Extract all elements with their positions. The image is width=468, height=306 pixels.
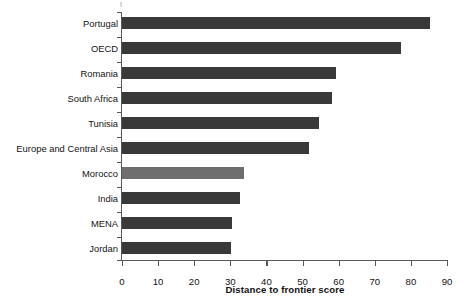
y-axis-tick	[117, 162, 122, 163]
y-axis-label-europe-and-central-asia: Europe and Central Asia	[2, 143, 118, 154]
bar-tunisia	[122, 117, 319, 129]
x-axis-tick	[266, 260, 267, 266]
y-axis-category-labels: Portugal OECD Romania South Africa Tunis…	[0, 12, 118, 260]
y-axis-label-portugal: Portugal	[2, 18, 118, 29]
plot-area: 0 10 20 30 40 50 60 70 80 90	[122, 12, 448, 260]
bar-mena	[122, 217, 232, 229]
y-axis-tick	[117, 12, 122, 13]
scan-artifact	[120, 2, 122, 7]
y-axis-tick	[117, 37, 122, 38]
bar-south-africa	[122, 92, 332, 104]
y-axis-label-tunisia: Tunisia	[2, 118, 118, 129]
x-axis-tick	[194, 260, 195, 266]
y-axis-label-south-africa: South Africa	[2, 93, 118, 104]
y-axis-tick	[117, 87, 122, 88]
y-axis-label-morocco: Morocco	[2, 168, 118, 179]
y-axis-tick	[117, 187, 122, 188]
y-axis-label-oecd: OECD	[2, 43, 118, 54]
x-axis-tick	[230, 260, 231, 266]
bar-romania	[122, 67, 336, 79]
y-axis-label-jordan: Jordan	[2, 243, 118, 254]
bar-india	[122, 192, 240, 204]
bar-oecd	[122, 42, 401, 54]
x-axis-title: Distance to frontier score	[122, 284, 448, 295]
y-axis-label-india: India	[2, 193, 118, 204]
x-axis-tick	[122, 260, 123, 266]
y-axis-tick	[117, 237, 122, 238]
y-axis-tick	[117, 62, 122, 63]
y-axis-tick	[117, 137, 122, 138]
bar-morocco	[122, 167, 244, 179]
bar-chart: Portugal OECD Romania South Africa Tunis…	[0, 0, 468, 306]
x-axis-line	[121, 260, 448, 261]
x-axis-tick	[339, 260, 340, 266]
x-axis-tick	[158, 260, 159, 266]
bar-europe-and-central-asia	[122, 142, 309, 154]
y-axis-label-romania: Romania	[2, 68, 118, 79]
x-axis-tick	[375, 260, 376, 266]
y-axis-tick	[117, 112, 122, 113]
y-axis-label-mena: MENA	[2, 218, 118, 229]
bar-jordan	[122, 242, 231, 254]
x-axis-tick	[303, 260, 304, 266]
x-axis-tick	[411, 260, 412, 266]
y-axis-tick	[117, 212, 122, 213]
x-axis-tick	[447, 260, 448, 266]
bar-portugal	[122, 17, 430, 29]
